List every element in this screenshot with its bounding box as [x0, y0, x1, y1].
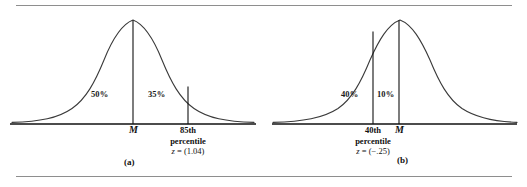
panel-caption-b: (b): [397, 155, 408, 165]
normal-curve-b: [263, 0, 527, 187]
percentile-annotation-a-zvalue: z = (1.04): [148, 146, 228, 157]
percentile-annotation-a-line2: percentile: [148, 136, 228, 147]
area-label-35-percent: 35%: [148, 89, 165, 99]
figure-sheet: 50% 35% M 85th percentile z = (1.04) (a)…: [0, 0, 527, 187]
percentile-annotation-b-line1: 40th: [333, 125, 413, 136]
percentile-annotation-b-line2: percentile: [333, 136, 413, 147]
percentile-annotation-a: 85th percentile z = (1.04): [148, 125, 228, 157]
figure-bottom-rule: [16, 176, 512, 177]
panel-b: 40% 10% M 40th percentile z = (−.25) (b): [263, 0, 527, 187]
z-value-b: = (−.25): [360, 146, 390, 156]
area-label-10-percent: 10%: [377, 89, 394, 99]
area-label-50-percent: 50%: [91, 89, 108, 99]
percentile-annotation-a-line1: 85th: [148, 125, 228, 136]
z-value-a: = (1.04): [175, 146, 205, 156]
panel-caption-a: (a): [124, 157, 135, 167]
panel-a: 50% 35% M 85th percentile z = (1.04) (a): [0, 0, 264, 187]
area-label-40-percent: 40%: [341, 89, 358, 99]
mean-label-a: M: [129, 124, 138, 135]
percentile-annotation-b: 40th percentile z = (−.25): [333, 125, 413, 157]
